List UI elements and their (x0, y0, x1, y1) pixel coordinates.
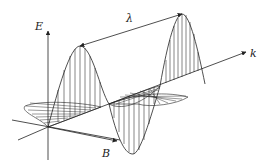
b-axis (48, 127, 117, 141)
k-axis-label: k (250, 48, 257, 59)
b-field-wave (24, 86, 188, 127)
diagonal-reference-line (18, 127, 48, 140)
e-axis-label: E (35, 21, 43, 32)
e-field-wave (48, 14, 205, 154)
b-lobe-left (24, 102, 101, 127)
horizontal-reference-line (12, 120, 120, 140)
e-wave-curve (48, 14, 205, 154)
b-axis-label: B (102, 148, 110, 159)
wavelength-label: λ (126, 13, 133, 24)
